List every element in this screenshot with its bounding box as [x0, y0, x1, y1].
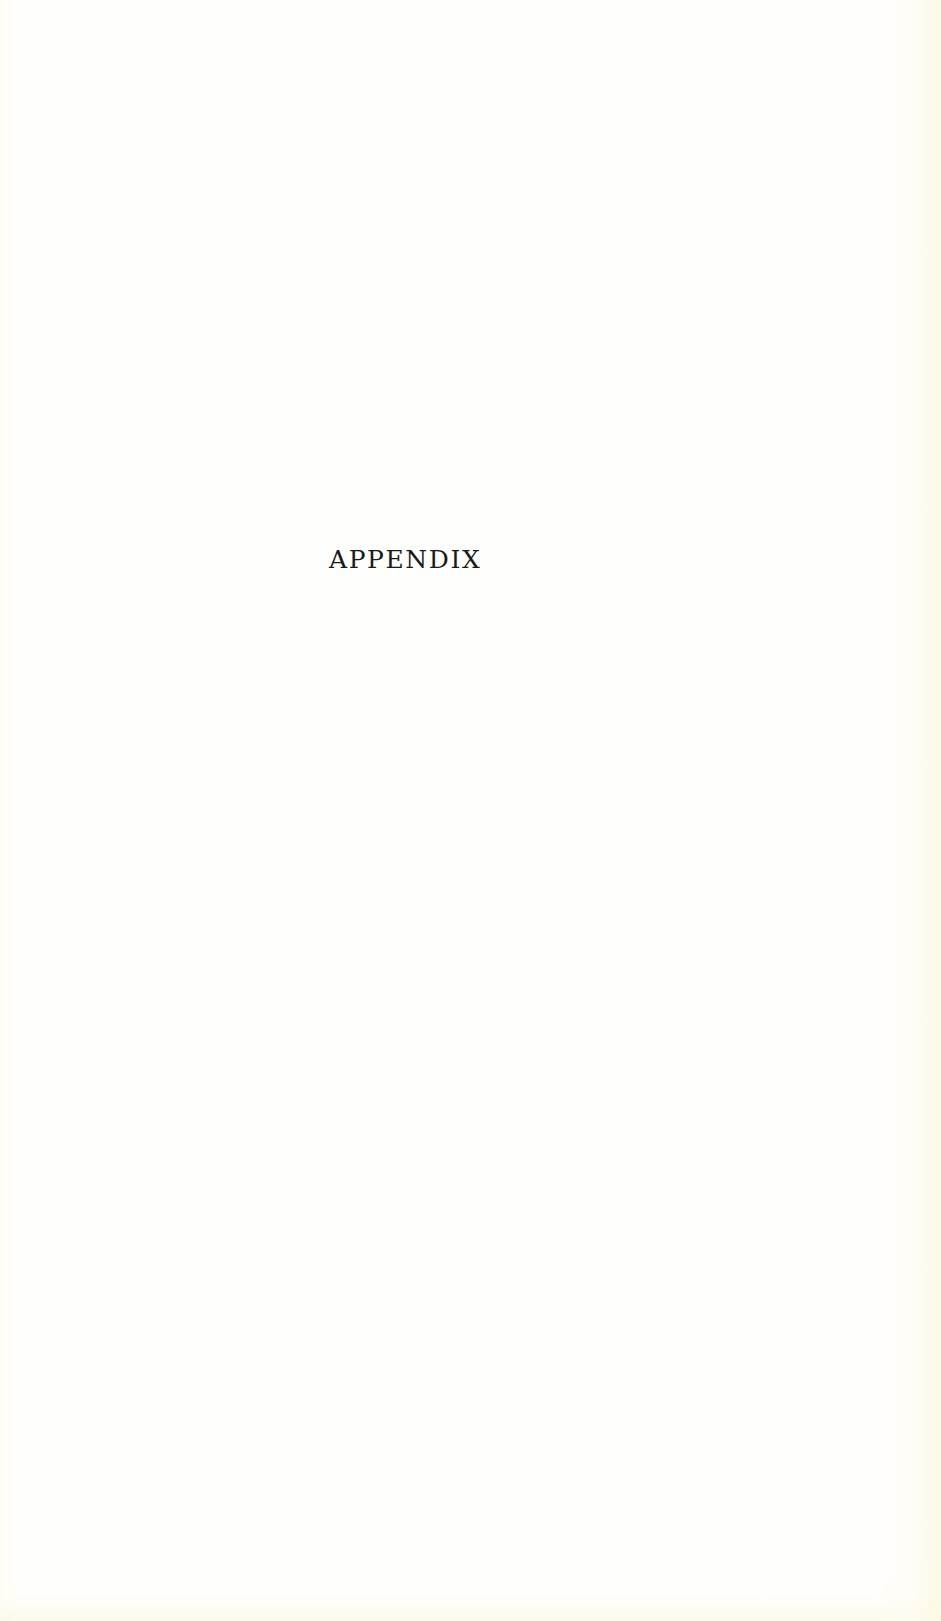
appendix-heading: APPENDIX: [329, 541, 481, 579]
book-page: APPENDIX: [0, 0, 941, 1621]
